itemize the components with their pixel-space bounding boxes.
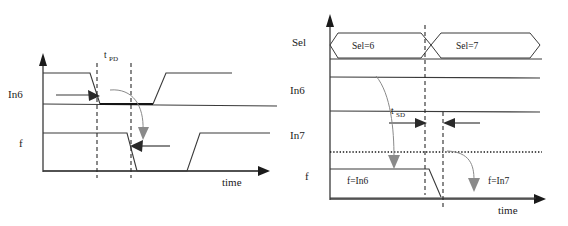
right-delay-label: t SD — [391, 106, 405, 119]
right-timing-panel: Sel In6 In7 f Sel=6 Sel=7 f=In6 f=In7 t … — [284, 0, 568, 226]
right-label-sel: Sel — [292, 36, 306, 48]
right-sel-bus-2 — [431, 33, 540, 58]
right-f-value-2: f=In7 — [488, 176, 509, 186]
right-f-value-1: f=In6 — [347, 176, 368, 186]
left-in6-wave-rise — [153, 73, 232, 104]
left-f-wave-rise — [137, 133, 270, 171]
right-in6-high-line — [330, 77, 540, 78]
right-bus-value-1: Sel=6 — [352, 41, 374, 51]
left-delay-label-sub: PD — [109, 55, 118, 63]
right-causality-curve-arrow-2 — [447, 151, 480, 192]
timing-diagram-figure: In6 f t PD time — [0, 0, 568, 226]
right-bus-value-2: Sel=7 — [456, 41, 478, 51]
left-delay-label-base: t — [104, 50, 107, 60]
right-x-axis — [330, 194, 546, 204]
right-axis-label-time: time — [498, 204, 518, 216]
right-delay-measure-arrow-right — [443, 118, 480, 128]
left-axis-label-time: time — [222, 176, 242, 188]
right-sel-bus-1 — [330, 33, 431, 58]
right-y-axis-arrowhead — [326, 14, 334, 27]
left-x-axis-arrowhead — [258, 166, 270, 176]
left-label-in6: In6 — [8, 88, 23, 100]
right-delay-label-base: t — [391, 106, 394, 116]
right-x-axis-arrowhead — [534, 194, 546, 204]
left-f-wave-fall — [43, 133, 137, 171]
right-label-in7: In7 — [290, 129, 305, 141]
left-timing-panel: In6 f t PD time — [0, 0, 284, 226]
left-y-axis — [39, 53, 47, 172]
left-timing-svg: In6 f t PD time — [0, 0, 284, 226]
right-delay-measure-arrow-left — [389, 118, 427, 128]
right-y-axis — [326, 14, 334, 200]
right-timing-svg: Sel In6 In7 f Sel=6 Sel=7 f=In6 f=In7 t … — [284, 0, 568, 226]
right-label-in6: In6 — [290, 84, 305, 96]
left-y-axis-arrowhead — [39, 53, 47, 66]
right-in6-low-line — [330, 111, 540, 112]
left-f-pointer-arrow — [130, 140, 170, 152]
left-in6-baseline — [43, 104, 277, 106]
left-delay-label: t PD — [104, 50, 118, 63]
left-in6-pointer-arrow — [56, 90, 100, 101]
right-delay-label-sub: SD — [396, 111, 405, 119]
right-label-f: f — [305, 170, 309, 182]
left-label-f: f — [19, 137, 23, 149]
